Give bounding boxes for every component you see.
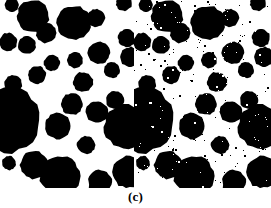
noise-speck [232,123,234,125]
noise-speck [246,88,247,89]
noise-speck [196,118,197,119]
noise-speck [202,134,203,135]
noise-speck [136,8,138,10]
noise-speck [208,43,209,44]
noise-speck [144,22,145,23]
noise-speck [145,45,146,46]
noise-speck [138,172,139,173]
noise-speck [220,184,222,186]
noise-speck [218,90,219,91]
noise-speck [222,75,224,77]
noise-speck [248,30,249,31]
noise-speck [265,23,266,24]
noise-speck [197,14,199,16]
noise-speck [153,59,155,61]
noise-speck [173,154,174,155]
noise-speck [242,55,243,56]
noise-speck [202,119,203,120]
noise-speck [231,155,233,157]
noise-speck [252,172,253,173]
noise-speck [172,69,174,71]
noise-speck [174,135,176,137]
noise-speck [145,69,146,70]
noise-speck [243,77,245,79]
noise-speck [203,158,204,159]
noise-speck [267,87,269,89]
noise-speck [171,12,172,13]
noise-speck [257,40,259,42]
noise-speck [204,140,205,141]
noise-speck [195,140,196,141]
noise-speck [258,140,259,141]
noise-speck [178,161,180,163]
noise-speck [228,159,229,160]
noise-speck [160,106,161,107]
noise-speck [171,158,172,159]
noise-speck [186,10,188,12]
noise-speck [191,47,193,49]
noise-speck [142,61,143,62]
noise-speck [242,36,243,37]
noise-speck [173,98,174,99]
noise-speck [225,100,226,101]
noise-speck [215,180,216,181]
noise-speck [211,135,212,136]
noise-speck [163,88,165,90]
noise-speck [150,28,152,30]
noise-speck [218,75,220,77]
noise-speck [238,55,239,56]
noise-speck [174,87,175,88]
noise-speck [213,166,214,167]
noise-speck [200,179,201,180]
noise-speck [202,186,204,188]
noise-speck [219,73,220,74]
noise-speck [149,6,150,7]
noise-speck [256,60,257,61]
noise-speck [222,35,223,36]
noise-speck [213,64,214,65]
noise-speck [140,143,141,144]
noise-speck [259,151,260,152]
noise-speck [171,48,173,50]
noise-speck [156,1,158,3]
noise-speck [235,18,236,19]
noise-speck [240,35,241,36]
noise-speck [267,149,268,150]
noise-speck [259,51,260,52]
noise-speck [160,65,162,67]
noise-speck [155,59,156,60]
noise-speck [184,57,185,58]
noise-speck [214,106,215,107]
noise-speck [171,109,172,110]
noise-speck [146,98,147,99]
noise-speck [225,168,226,169]
noise-speck [167,64,168,65]
noise-speck [174,168,175,169]
noise-speck [215,151,216,152]
noise-speck [147,24,148,25]
noise-speck [172,149,174,151]
noise-speck [211,116,212,117]
noise-speck [168,146,169,147]
noise-speck [231,42,232,43]
noise-speck [162,99,164,101]
noise-speck [260,14,261,15]
noise-speck [144,146,145,147]
noise-speck [204,45,206,47]
noise-speck [268,121,269,122]
noise-speck [202,128,203,129]
noise-speck [225,174,226,175]
noise-speck [148,17,149,18]
noise-speck [207,159,208,160]
noise-speck [235,147,237,149]
panel-noisy-binary-image [134,0,271,188]
noise-speck [262,18,263,19]
noise-speck [242,66,243,67]
noise-speck [182,70,183,71]
noise-speck [226,91,227,92]
noise-speck [227,46,228,47]
noise-speck [207,112,208,113]
noise-speck [217,12,219,14]
noise-speck [195,96,196,97]
noise-speck [168,99,169,100]
